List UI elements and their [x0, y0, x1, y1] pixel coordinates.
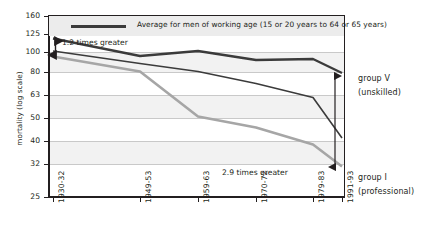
legend-label: Average for men of working age (15 or 20…	[137, 20, 387, 29]
x-tick-mark-1970-72	[256, 198, 257, 202]
chart-container: mortality (log scale) 160 125 100 80 63 …	[0, 0, 423, 250]
gridline-40	[50, 141, 344, 142]
gridline-50	[50, 118, 344, 119]
side-label-group-i-sub: (professional)	[358, 187, 414, 196]
x-tick-label-1959-63: 1959-63	[202, 171, 211, 203]
x-tick-mark-1930-32	[53, 198, 54, 202]
gridline-63	[50, 95, 344, 96]
side-label-group-i: group I	[358, 173, 387, 182]
gridline-80	[50, 72, 344, 73]
annotation-early-ratio: 1.2 times greater	[62, 38, 128, 47]
x-tick-mark-1959-63	[198, 198, 199, 202]
x-tick-mark-1979-83	[313, 198, 314, 202]
y-tick-label-125: 125	[6, 29, 40, 38]
plot-band-2	[50, 52, 344, 72]
y-tick-label-32: 32	[6, 159, 40, 168]
x-tick-label-1930-32: 1930-32	[57, 171, 66, 203]
plot-band-4	[50, 141, 344, 164]
chart-legend: Average for men of working age (15 or 20…	[49, 16, 344, 36]
y-tick-label-80: 80	[6, 67, 40, 76]
y-tick-label-100: 100	[6, 47, 40, 56]
x-tick-label-1979-83: 1979-83	[317, 171, 326, 203]
y-tick-label-50: 50	[6, 113, 40, 122]
plot-band-3	[50, 95, 344, 118]
x-tick-mark-1991-93	[342, 198, 343, 202]
side-label-group-v-sub: (unskilled)	[358, 88, 401, 97]
gridline-100	[50, 52, 344, 53]
y-tick-label-160: 160	[6, 11, 40, 20]
x-tick-label-1949-53: 1949-53	[144, 171, 153, 203]
legend-line-swatch	[71, 25, 126, 28]
side-label-group-v: group V	[358, 74, 390, 83]
y-tick-label-25: 25	[6, 192, 40, 201]
x-tick-mark-1949-53	[140, 198, 141, 202]
gridline-32	[50, 164, 344, 165]
x-tick-label-1970-72: 1970-72	[260, 171, 269, 203]
y-tick-label-63: 63	[6, 90, 40, 99]
annotation-late-ratio: 2.9 times greater	[222, 168, 288, 177]
x-tick-label-1991-93: 1991-93	[346, 171, 355, 203]
y-tick-label-40: 40	[6, 136, 40, 145]
